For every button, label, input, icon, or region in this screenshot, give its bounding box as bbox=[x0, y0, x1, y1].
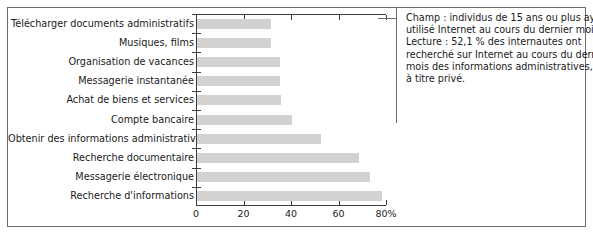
axis-bottom bbox=[196, 205, 386, 206]
category-label: Messagerie instantanée bbox=[8, 75, 194, 86]
note-block: Champ : individus de 15 ans ou plus ayan… bbox=[406, 12, 581, 85]
xtick-label: 0 bbox=[193, 208, 199, 219]
note-line: mois des informations administratives, bbox=[406, 61, 581, 73]
note-connector-line bbox=[378, 18, 397, 19]
xtick-top-40 bbox=[291, 15, 292, 20]
bar bbox=[197, 76, 280, 86]
note-line: à titre privé. bbox=[406, 73, 581, 85]
xtick-top-60 bbox=[339, 15, 340, 20]
figure-container: Télécharger documents administratifsMusi… bbox=[0, 0, 593, 234]
category-label: Recherche documentaire bbox=[8, 152, 194, 163]
xtick-label: 60 bbox=[332, 208, 344, 219]
bar bbox=[197, 57, 280, 67]
category-tick bbox=[192, 33, 201, 34]
category-tick bbox=[192, 72, 201, 73]
category-label: Recherche d'informations bbox=[8, 190, 194, 201]
xtick-label: 80% bbox=[375, 208, 396, 219]
category-label: Organisation de vacances bbox=[8, 56, 194, 67]
category-tick bbox=[192, 91, 201, 92]
note-line: recherché sur Internet au cours du derni… bbox=[406, 49, 581, 61]
xtick-bottom-80 bbox=[386, 200, 387, 205]
bar bbox=[197, 19, 271, 29]
xtick-label: 40 bbox=[285, 208, 297, 219]
bar-chart: Télécharger documents administratifsMusi… bbox=[8, 8, 397, 226]
category-tick bbox=[192, 148, 201, 149]
category-label: Obtenir des informations administratives bbox=[8, 133, 194, 144]
category-tick bbox=[192, 187, 201, 188]
category-tick bbox=[192, 129, 201, 130]
category-label: Messagerie électronique bbox=[8, 171, 194, 182]
category-label: Télécharger documents administratifs bbox=[8, 18, 194, 29]
category-label: Compte bancaire bbox=[8, 114, 194, 125]
note-line: utilisé Internet au cours du dernier moi… bbox=[406, 24, 581, 36]
note-divider bbox=[396, 8, 397, 123]
bar bbox=[197, 191, 382, 201]
plot-area: 020406080% bbox=[196, 14, 386, 206]
note-line: Lecture : 52,1 % des internautes ont bbox=[406, 36, 581, 48]
category-tick bbox=[192, 52, 201, 53]
xtick-label: 20 bbox=[237, 208, 249, 219]
category-tick bbox=[192, 168, 201, 169]
bar bbox=[197, 134, 321, 144]
category-label-column: Télécharger documents administratifsMusi… bbox=[8, 14, 194, 206]
category-label: Musiques, films bbox=[8, 37, 194, 48]
bar bbox=[197, 38, 271, 48]
bar bbox=[197, 115, 292, 125]
category-tick bbox=[192, 110, 201, 111]
bar bbox=[197, 153, 359, 163]
bar bbox=[197, 95, 281, 105]
category-label: Achat de biens et services bbox=[8, 94, 194, 105]
bar bbox=[197, 172, 370, 182]
category-tick bbox=[192, 14, 201, 15]
note-line: Champ : individus de 15 ans ou plus ayan… bbox=[406, 12, 581, 24]
